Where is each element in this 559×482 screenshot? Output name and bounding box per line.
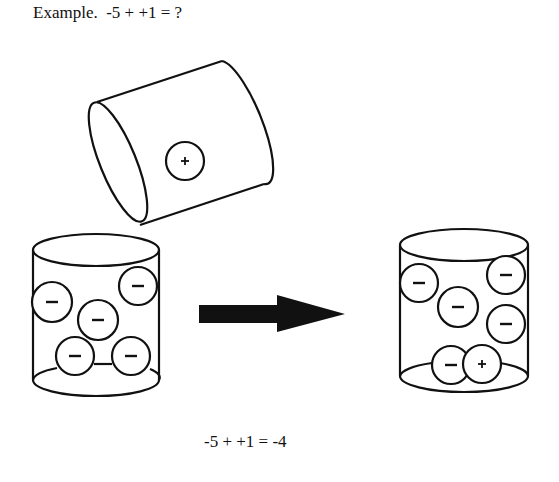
negative-charge [487, 256, 525, 294]
end-cylinder-bottom-back-left [400, 363, 432, 376]
start-cylinder [32, 234, 160, 396]
result-equation: -5 + +1 = -4 [204, 432, 287, 452]
diagram-canvas [0, 0, 559, 482]
end-cylinder [400, 229, 528, 392]
pouring-cylinder-right-end [222, 61, 273, 184]
start-cylinder-bottom-back-left [33, 368, 57, 380]
negative-charge [487, 305, 525, 343]
arrow-shape [199, 295, 345, 332]
negative-charge [119, 267, 157, 305]
negative-charge [56, 337, 94, 375]
pouring-cylinder-bottom-edge [140, 184, 264, 225]
pouring-cylinder [77, 61, 273, 228]
negative-charge [400, 264, 438, 302]
pouring-cylinder-left-end [77, 96, 158, 228]
negative-charge [32, 282, 72, 322]
start-cylinder-bottom-front [33, 380, 159, 396]
negative-charge [78, 300, 118, 340]
result-arrow [199, 295, 345, 332]
positive-charge [463, 345, 501, 383]
negative-charge [112, 337, 150, 375]
pouring-cylinder-top-edge [97, 61, 222, 102]
end-cylinder-bottom-back-right [500, 363, 528, 376]
positive-charge [166, 142, 204, 180]
negative-charge [438, 287, 478, 327]
start-cylinder-top [33, 234, 159, 266]
